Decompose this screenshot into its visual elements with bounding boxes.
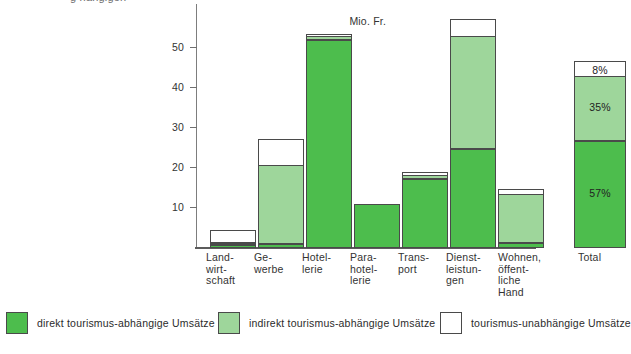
bar-hotellerie[interactable] <box>306 34 352 247</box>
bar-segment-direct[interactable] <box>498 243 544 248</box>
legend-label-independent: tourismus-unabhängige Umsätze <box>471 317 631 329</box>
y-tick-20 <box>190 167 197 168</box>
y-axis-line <box>196 4 197 247</box>
legend-item-direct[interactable]: direkt tourismus-abhängige Umsätze <box>6 312 215 334</box>
y-tick-label-20: 20 <box>144 161 184 173</box>
bar-gewerbe[interactable] <box>258 139 304 247</box>
y-tick-40 <box>190 87 197 88</box>
y-tick-50 <box>190 47 197 48</box>
x-label-gewerbe: Ge- werbe <box>254 252 284 275</box>
bar-segment-indirect[interactable]: 35% <box>574 76 626 141</box>
bar-segment-independent[interactable] <box>450 19 496 37</box>
legend-item-indirect[interactable]: indirekt tourismus-abhängige Umsätze <box>218 312 435 334</box>
y-tick-label-50: 50 <box>144 41 184 53</box>
legend-label-direct: direkt tourismus-abhängige Umsätze <box>37 317 215 329</box>
bar-segment-indirect[interactable] <box>210 243 256 245</box>
bar-segment-direct[interactable] <box>258 244 304 248</box>
bar-total-direct-label: 57% <box>575 187 625 199</box>
bar-segment-independent[interactable]: 8% <box>574 61 626 77</box>
bar-segment-direct[interactable]: 57% <box>574 141 626 248</box>
cropped-title-text: g hängigen <box>70 0 126 3</box>
bar-segment-direct[interactable] <box>450 149 496 248</box>
bar-landwirtschaft[interactable] <box>210 230 256 247</box>
x-label-total: Total <box>578 252 601 264</box>
bar-segment-direct[interactable] <box>210 245 256 248</box>
bar-total-independent-label: 8% <box>575 64 625 76</box>
bar-dienstleistungen[interactable] <box>450 18 496 247</box>
legend-swatch-independent-icon <box>440 312 462 334</box>
legend-swatch-direct-icon <box>6 312 28 334</box>
legend-item-independent[interactable]: tourismus-unabhängige Umsätze <box>440 312 631 334</box>
bar-total-indirect-label: 35% <box>575 101 625 113</box>
bar-segment-indirect[interactable] <box>498 194 544 243</box>
bar-segment-independent[interactable] <box>498 189 544 195</box>
x-label-transport: Trans- port <box>398 252 429 275</box>
x-label-wohnen-oeffentliche-hand: Wohnen, öffent- liche Hand <box>498 252 541 298</box>
y-axis-unit-label: Mio. Fr. <box>336 15 386 27</box>
bar-segment-indirect[interactable] <box>450 36 496 149</box>
y-tick-label-30: 30 <box>144 121 184 133</box>
x-label-parahotellerie: Para- hotel- lerie <box>350 252 377 287</box>
y-tick-10 <box>190 207 197 208</box>
bar-transport[interactable] <box>402 171 448 247</box>
y-tick-label-10: 10 <box>144 201 184 213</box>
chart-legend: direkt tourismus-abhängige Umsätze indir… <box>0 312 607 340</box>
bar-segment-independent[interactable] <box>402 172 448 176</box>
x-axis-category-labels: Land- wirt- schaft Ge- werbe Hotel- leri… <box>196 252 556 310</box>
bar-segment-direct[interactable] <box>354 204 400 248</box>
bar-segment-independent[interactable] <box>210 230 256 243</box>
legend-label-indirect: indirekt tourismus-abhängige Umsätze <box>249 317 435 329</box>
bar-segment-direct[interactable] <box>306 40 352 248</box>
x-label-dienstleistungen: Dienst- leistun- gen <box>446 252 481 287</box>
bar-segment-direct[interactable] <box>402 179 448 248</box>
x-label-hotellerie: Hotel- lerie <box>302 252 331 275</box>
bar-total[interactable]: 57% 35% 8% <box>574 60 626 247</box>
bar-parahotellerie[interactable] <box>354 203 400 247</box>
bar-segment-independent[interactable] <box>258 139 304 166</box>
bar-segment-indirect[interactable] <box>258 165 304 244</box>
legend-swatch-indirect-icon <box>218 312 240 334</box>
y-tick-30 <box>190 127 197 128</box>
x-label-landwirtschaft: Land- wirt- schaft <box>206 252 235 287</box>
plot-area: Mio. Fr. 10 20 30 40 50 <box>196 4 536 247</box>
y-tick-label-40: 40 <box>144 81 184 93</box>
bar-wohnen-oeffentliche-hand[interactable] <box>498 189 544 247</box>
bar-segment-independent[interactable] <box>306 34 352 37</box>
